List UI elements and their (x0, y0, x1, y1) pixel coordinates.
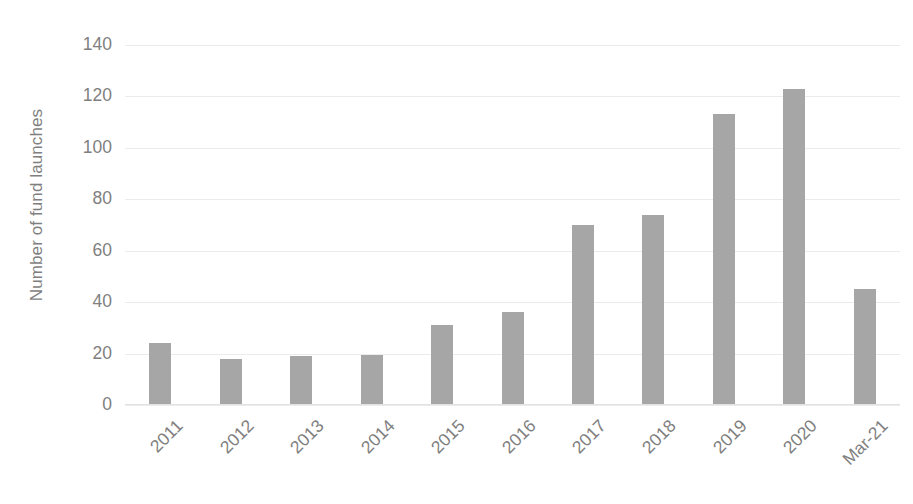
bar[interactable] (431, 325, 453, 405)
y-axis-tick-label: 120 (60, 88, 112, 106)
y-axis-tick-label: 140 (60, 36, 112, 54)
x-axis-tick-label-text: 2013 (288, 417, 328, 457)
bar[interactable] (783, 89, 805, 405)
bar[interactable] (290, 356, 312, 405)
y-axis-tick-label: 60 (60, 242, 112, 260)
bar[interactable] (220, 359, 242, 405)
bar[interactable] (713, 114, 735, 405)
y-axis-tick-labels: 020406080100120140 (60, 0, 112, 504)
x-axis-tick-label-text: 2016 (499, 417, 539, 457)
y-axis-tick-label: 20 (60, 345, 112, 363)
bar-chart: Number of fund launches 0204060801001201… (0, 0, 913, 504)
bar[interactable] (854, 289, 876, 405)
bar[interactable] (149, 343, 171, 405)
y-axis-tick-label: 0 (60, 396, 112, 414)
x-axis-tick-label-text: 2012 (217, 417, 257, 457)
x-axis-tick-label-text: Mar-21 (840, 417, 892, 469)
bar[interactable] (502, 312, 524, 405)
bars-layer (125, 45, 900, 405)
x-axis-tick-label-text: 2020 (781, 417, 821, 457)
y-axis-tick-label: 40 (60, 293, 112, 311)
x-axis-tick-label-text: 2015 (428, 417, 468, 457)
y-axis-title: Number of fund launches (26, 25, 48, 385)
x-axis-tick-label-text: 2011 (148, 417, 187, 456)
x-axis-tick-label-text: 2018 (640, 417, 680, 457)
y-axis-tick-label: 100 (60, 139, 112, 157)
y-axis-tick-label: 80 (60, 191, 112, 209)
plot-area (125, 45, 900, 405)
x-axis-tick-labels: 2011201220132014201520162017201820192020… (125, 405, 900, 504)
x-axis-tick-label-text: 2014 (358, 417, 398, 457)
x-axis-tick-label-text: 2017 (569, 417, 609, 457)
bar[interactable] (572, 225, 594, 405)
x-axis-tick-label-text: 2019 (710, 417, 750, 457)
bar[interactable] (361, 355, 383, 405)
bar[interactable] (642, 215, 664, 405)
